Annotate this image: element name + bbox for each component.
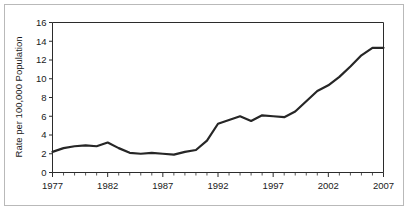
y-tick-label: 16: [36, 17, 47, 28]
y-tick-label: 2: [41, 148, 46, 159]
y-axis-ticks: 0246810121416: [36, 17, 53, 178]
y-tick-label: 14: [36, 36, 47, 47]
y-tick-label: 12: [36, 54, 47, 65]
line-chart: Rate per 100,000 Population 024681012141…: [0, 0, 410, 212]
y-tick-label: 4: [41, 129, 46, 140]
y-tick-label: 0: [41, 167, 46, 178]
y-axis-title-label: Rate per 100,000 Population: [13, 37, 24, 158]
x-tick-label: 2007: [373, 180, 394, 191]
axis-lines: [53, 23, 384, 173]
x-axis-ticks: 1977198219871992199720022007: [42, 173, 394, 191]
data-line-rate: [53, 48, 384, 155]
x-tick-label: 1982: [97, 180, 118, 191]
chart-figure: Rate per 100,000 Population 024681012141…: [0, 0, 410, 212]
x-tick-label: 1997: [263, 180, 284, 191]
data-series-group: [53, 48, 384, 155]
x-tick-label: 1987: [152, 180, 173, 191]
y-tick-label: 10: [36, 73, 47, 84]
x-tick-label: 1992: [207, 180, 228, 191]
x-tick-label: 1977: [42, 180, 63, 191]
y-axis-title: Rate per 100,000 Population: [13, 37, 24, 158]
y-tick-label: 6: [41, 111, 46, 122]
x-tick-label: 2002: [318, 180, 339, 191]
y-tick-label: 8: [41, 92, 46, 103]
